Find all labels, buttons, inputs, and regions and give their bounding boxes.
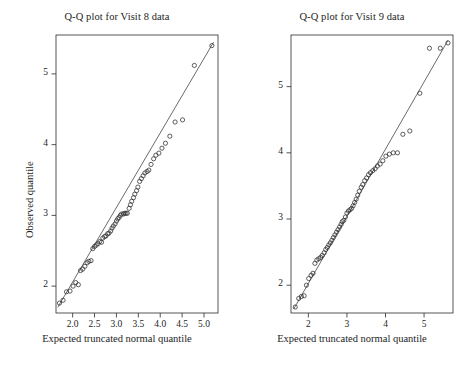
data-point	[381, 159, 385, 163]
data-point	[395, 151, 399, 155]
data-point	[154, 153, 158, 157]
y-tick-label: 3	[32, 208, 48, 218]
scatter-plot-visit-9	[235, 0, 469, 366]
x-tick-label: 2	[293, 319, 323, 329]
x-axis-label-right: Expected truncated normal quantile	[235, 333, 469, 344]
y-tick-label: 3	[267, 212, 283, 222]
data-point	[149, 162, 153, 166]
x-tick-label: 5.0	[189, 319, 219, 329]
panel-visit-8: Q-Q plot for Visit 8 data Observed quant…	[0, 0, 234, 366]
data-point	[302, 294, 306, 298]
data-point	[160, 146, 164, 150]
data-point	[168, 134, 172, 138]
x-tick-label: 5	[409, 319, 439, 329]
x-tick-label: 4	[371, 319, 401, 329]
data-point	[408, 129, 412, 133]
plot-frame	[56, 35, 218, 313]
y-tick-label: 5	[32, 67, 48, 77]
y-tick-label: 5	[267, 80, 283, 90]
data-point	[157, 151, 161, 155]
y-axis-label-left: Observed quantile	[24, 161, 35, 238]
data-point	[401, 132, 405, 136]
data-point	[192, 63, 196, 67]
data-point	[173, 120, 177, 124]
y-tick-label: 4	[32, 138, 48, 148]
panel-visit-9: Q-Q plot for Visit 9 data Observed quant…	[235, 0, 469, 366]
qq-plot-figure: Q-Q plot for Visit 8 data Observed quant…	[0, 0, 469, 366]
data-point	[427, 46, 431, 50]
data-point	[418, 91, 422, 95]
scatter-plot-visit-8	[0, 0, 234, 366]
data-point	[357, 189, 361, 193]
x-tick-label: 3	[332, 319, 362, 329]
data-point	[163, 141, 167, 145]
data-point	[438, 46, 442, 50]
y-tick-label: 2	[32, 279, 48, 289]
x-axis-label-left: Expected truncated normal quantile	[0, 333, 234, 344]
y-tick-label: 4	[267, 146, 283, 156]
y-tick-label: 2	[267, 278, 283, 288]
data-point	[391, 151, 395, 155]
data-point	[180, 118, 184, 122]
